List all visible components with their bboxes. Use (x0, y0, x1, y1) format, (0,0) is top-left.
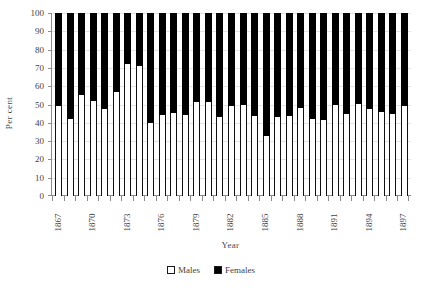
y-tick-label-60: 60 (35, 82, 44, 91)
x-tick-label-1879: 1879 (191, 214, 200, 232)
stacked-bar[interactable] (343, 13, 350, 196)
stacked-bar[interactable] (228, 13, 235, 196)
stacked-bar[interactable] (101, 13, 108, 196)
stacked-bar[interactable] (378, 13, 385, 196)
x-tick-slot (98, 196, 110, 201)
stacked-bar[interactable] (309, 13, 316, 196)
bar-segment-females (101, 13, 108, 109)
x-tickmark (408, 196, 409, 201)
stacked-bar[interactable] (366, 13, 373, 196)
x-tickmark (167, 196, 168, 201)
stacked-bar[interactable] (193, 13, 200, 196)
stacked-bar[interactable] (286, 13, 293, 196)
stacked-bar[interactable] (170, 13, 177, 196)
stacked-bar[interactable] (297, 13, 304, 196)
stacked-bar[interactable] (355, 13, 362, 196)
legend-label-males: Males (178, 265, 200, 275)
x-label-slot (110, 202, 122, 236)
bar-slot (283, 13, 295, 196)
stacked-bar[interactable] (320, 13, 327, 196)
stacked-bar[interactable] (216, 13, 223, 196)
stacked-bar[interactable] (332, 13, 339, 196)
y-tick-label-100: 100 (31, 9, 45, 18)
stacked-bar[interactable] (124, 13, 131, 196)
stacked-bar[interactable] (182, 13, 189, 196)
bar-segment-females (263, 13, 270, 136)
bar-segment-males (366, 109, 373, 196)
y-tick-label-50: 50 (35, 100, 44, 109)
legend-item-females[interactable]: Females (214, 265, 255, 275)
stacked-bar[interactable] (55, 13, 62, 196)
x-label-slot: 1891 (328, 202, 340, 236)
x-axis-tick-labels: 1867187018731876187918821885188818911894… (51, 202, 410, 236)
x-axis-title: Year (51, 240, 410, 250)
x-tickmark (374, 196, 375, 201)
bar-segment-males (378, 112, 385, 196)
stacked-bar[interactable] (90, 13, 97, 196)
stacked-bar[interactable] (147, 13, 154, 196)
stacked-bar[interactable] (389, 13, 396, 196)
y-tick-label-0: 0 (40, 192, 45, 201)
bar-slot (145, 13, 157, 196)
y-axis-tick-labels: 0102030405060708090100 (16, 13, 46, 196)
x-label-slot (271, 202, 283, 236)
x-label-slot (282, 202, 294, 236)
bar-segment-males (332, 105, 339, 196)
x-label-slot (133, 202, 145, 236)
bar-segment-females (205, 13, 212, 102)
bar-slot (352, 13, 364, 196)
x-label-slot (167, 202, 179, 236)
x-tick-slot (374, 196, 386, 201)
bar-segment-females (389, 13, 396, 114)
x-label-slot: 1876 (156, 202, 168, 236)
legend-swatch-males (167, 266, 175, 274)
bar-segment-males (147, 123, 154, 196)
bar-segment-males (240, 105, 247, 196)
x-tick-slot (294, 196, 306, 201)
stacked-bar[interactable] (67, 13, 74, 196)
stacked-bar[interactable] (136, 13, 143, 196)
bar-slot (341, 13, 353, 196)
bar-slot (260, 13, 272, 196)
y-tick-label-10: 10 (35, 173, 44, 182)
bar-segment-males (101, 109, 108, 196)
stacked-bar[interactable] (205, 13, 212, 196)
bar-slot (329, 13, 341, 196)
stacked-bar[interactable] (78, 13, 85, 196)
legend-item-males[interactable]: Males (167, 265, 200, 275)
x-tick-slot (397, 196, 409, 201)
legend-swatch-females (214, 266, 222, 274)
bar-segment-males (263, 136, 270, 196)
stacked-bar[interactable] (159, 13, 166, 196)
bar-segment-males (113, 92, 120, 196)
stacked-bar[interactable] (263, 13, 270, 196)
bar-segment-females (159, 13, 166, 115)
x-tick-slot (317, 196, 329, 201)
x-tickmark (98, 196, 99, 201)
bar-slot (398, 13, 410, 196)
y-tick-label-30: 30 (35, 137, 44, 146)
bar-slot (134, 13, 146, 196)
bar-segment-males (228, 106, 235, 196)
y-tick-label-40: 40 (35, 118, 44, 127)
stacked-bar[interactable] (274, 13, 281, 196)
x-label-slot: 1867 (52, 202, 64, 236)
x-tick-label-1885: 1885 (261, 214, 270, 232)
x-tick-slot (386, 196, 398, 201)
bar-slot (191, 13, 203, 196)
x-tick-label-1882: 1882 (226, 214, 235, 232)
stacked-bar[interactable] (113, 13, 120, 196)
bar-segment-females (228, 13, 235, 106)
bar-segment-males (205, 102, 212, 196)
bar-slot (111, 13, 123, 196)
x-label-slot: 1888 (294, 202, 306, 236)
stacked-bar[interactable] (251, 13, 258, 196)
x-tick-label-1870: 1870 (88, 214, 97, 232)
y-tick-label-20: 20 (35, 155, 44, 164)
stacked-bar[interactable] (240, 13, 247, 196)
bar-segment-females (378, 13, 385, 112)
x-label-slot (236, 202, 248, 236)
x-tickmark (144, 196, 145, 201)
x-tick-slot (167, 196, 179, 201)
stacked-bar[interactable] (401, 13, 408, 196)
